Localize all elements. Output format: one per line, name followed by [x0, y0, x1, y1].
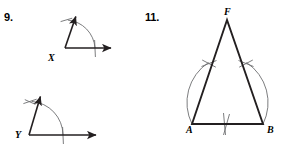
angle-y-arc: [23, 99, 63, 144]
problem-number-11: 11.: [145, 12, 159, 23]
problem-number-9: 9.: [4, 12, 13, 23]
figure-page: 9. X: [0, 0, 282, 150]
vertex-label-a: A: [186, 125, 193, 135]
vertex-label-f: F: [224, 7, 231, 17]
vertex-label-b: B: [267, 125, 274, 135]
angle-y-figure: [4, 74, 124, 146]
angle-x-arc: [61, 18, 96, 57]
angle-x-rays: [65, 17, 111, 49]
vertex-label-y: Y: [15, 130, 21, 140]
triangle-sides: [192, 20, 263, 124]
vertex-label-x: X: [48, 53, 55, 63]
triangle-fab-figure: [168, 4, 278, 144]
